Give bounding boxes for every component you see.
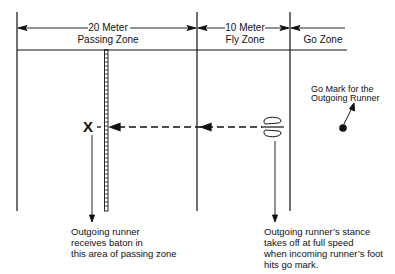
fly-zone-distance: 10 Meter — [225, 22, 264, 33]
go-mark-dot — [339, 124, 347, 132]
fly-zone-name: Fly Zone — [226, 34, 265, 45]
annotation-line: receives baton in — [71, 237, 177, 248]
annotation-line: when incoming runner’s foot — [264, 248, 383, 259]
go-mark-pointer-arrow — [344, 103, 355, 124]
runner-footprints-icon — [261, 117, 284, 137]
annotation-line: takes off at full speed — [264, 237, 383, 248]
go-mark-label-line2: Outgoing Runner — [311, 94, 380, 103]
baton-area-annotation: Outgoing runner receives baton in this a… — [71, 226, 177, 259]
go-zone-dimension-arrow — [291, 26, 345, 31]
annotation-line: hits go mark. — [264, 259, 383, 270]
annotation-line: Outgoing runner’s stance — [264, 226, 383, 237]
runner-path-dashed-arrow — [97, 124, 262, 131]
go-zone-name: Go Zone — [304, 34, 343, 45]
annotation-line: this area of passing zone — [71, 248, 177, 259]
passing-zone-distance: 20 Meter — [88, 22, 127, 33]
stance-pointer-arrow — [273, 141, 278, 222]
annotation-line: Outgoing runner — [71, 226, 177, 237]
stance-annotation: Outgoing runner’s stance takes off at fu… — [264, 226, 383, 270]
baton-area-pointer-arrow — [90, 135, 95, 222]
baton-exchange-marker: X — [83, 118, 93, 135]
passing-zone-name: Passing Zone — [77, 34, 138, 45]
